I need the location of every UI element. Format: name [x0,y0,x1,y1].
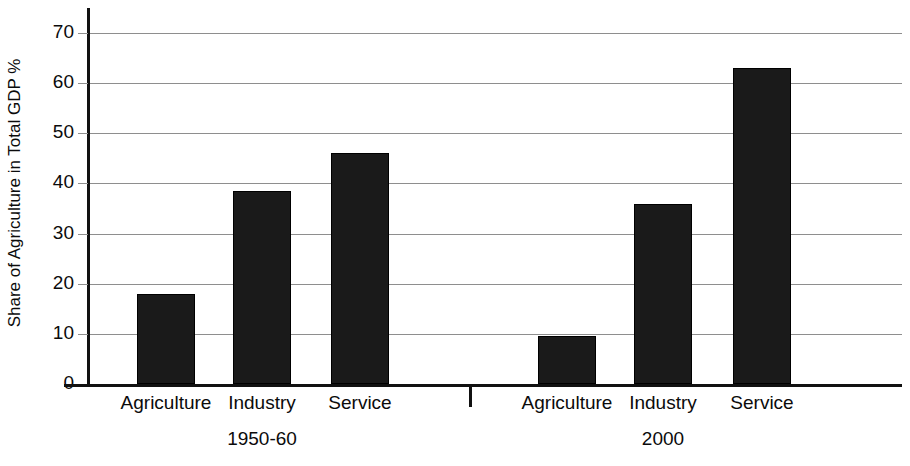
bar-1950-60-industry [233,191,291,384]
bar-2000-industry [634,204,692,384]
y-tick-mark-70 [78,33,88,34]
bar-1950-60-service [331,153,389,384]
y-tick-mark-60 [78,83,88,84]
y-tick-label-60: 60 [34,71,74,93]
y-axis-tick-labels: 010203040506070 [28,8,74,387]
y-tick-mark-30 [78,234,88,235]
y-tick-label-70: 70 [34,21,74,43]
category-label-1950-60-service: Service [328,392,391,414]
bar-chart-figure: Share of Agriculture in Total GDP % 0102… [0,0,910,466]
x-axis-line [64,384,902,387]
bar-2000-service [733,68,791,384]
y-tick-mark-40 [78,183,88,184]
y-tick-label-0: 0 [34,372,74,394]
y-axis-line [87,8,90,387]
y-tick-label-20: 20 [34,272,74,294]
y-tick-mark-50 [78,133,88,134]
group-labels: 1950-602000 [90,428,902,458]
y-tick-mark-20 [78,284,88,285]
bar-1950-60-agriculture [137,294,195,384]
category-label-2000-agriculture: Agriculture [522,392,613,414]
y-tick-label-50: 50 [34,121,74,143]
y-tick-label-10: 10 [34,322,74,344]
category-labels: AgricultureIndustryServiceAgricultureInd… [90,392,902,422]
category-label-2000-industry: Industry [629,392,697,414]
y-axis-title: Share of Agriculture in Total GDP % [0,0,30,388]
category-label-1950-60-agriculture: Agriculture [121,392,212,414]
y-tick-mark-0 [64,384,90,387]
y-tick-mark-10 [78,334,88,335]
bar-2000-agriculture [538,336,596,384]
y-tick-label-30: 30 [34,222,74,244]
y-tick-label-40: 40 [34,171,74,193]
category-label-2000-service: Service [730,392,793,414]
category-label-1950-60-industry: Industry [228,392,296,414]
group-label-2000: 2000 [642,428,684,450]
group-label-1950-60: 1950-60 [227,428,297,450]
bars-layer [90,8,902,384]
